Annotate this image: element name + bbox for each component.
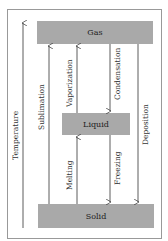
vaporization-label: Vaporization [65, 59, 74, 107]
temperature-label: Temperature [11, 111, 20, 160]
freezing-label: Freezing [113, 151, 122, 185]
sublimation-label: Sublimation [37, 84, 46, 130]
deposition-label: Deposition [141, 104, 150, 145]
condensation-label: Condensation [113, 48, 122, 100]
melting-label: Melting [65, 160, 74, 190]
